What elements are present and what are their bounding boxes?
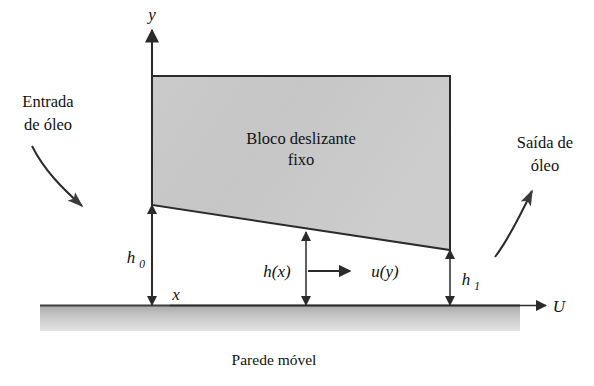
gap-outlet-base: h bbox=[462, 270, 471, 289]
gap-variable-label: h(x) bbox=[263, 262, 291, 281]
wall-caption: Parede móvel bbox=[232, 351, 317, 368]
gap-inlet-sub: 0 bbox=[139, 258, 145, 270]
x-axis-label: x bbox=[171, 285, 180, 304]
gap-inlet-base: h bbox=[127, 248, 136, 267]
velocity-profile-label: u(y) bbox=[371, 262, 399, 281]
gap-inlet-label: h 0 bbox=[127, 248, 145, 270]
y-axis-label: y bbox=[146, 5, 156, 24]
diagram-canvas: U y x Bloco deslizante fixo h 0 h(x) bbox=[0, 0, 594, 386]
outlet-label-line1: Saída de bbox=[517, 133, 573, 152]
sliding-block-oil-film-figure: U y x Bloco deslizante fixo h 0 h(x) bbox=[0, 0, 594, 386]
inlet-flow-arrow bbox=[32, 146, 82, 206]
outlet-flow-arrow bbox=[495, 191, 532, 257]
block-label-line2: fixo bbox=[288, 150, 315, 169]
outlet-label-line2: óleo bbox=[531, 156, 559, 175]
inlet-label-line1: Entrada bbox=[22, 92, 74, 111]
block-label-line1: Bloco deslizante bbox=[246, 129, 356, 148]
gap-outlet-label: h 1 bbox=[462, 270, 480, 292]
gap-outlet-sub: 1 bbox=[474, 280, 480, 292]
wall-velocity-label: U bbox=[553, 297, 567, 316]
inlet-label-line2: de óleo bbox=[24, 115, 72, 134]
moving-wall bbox=[40, 305, 520, 331]
